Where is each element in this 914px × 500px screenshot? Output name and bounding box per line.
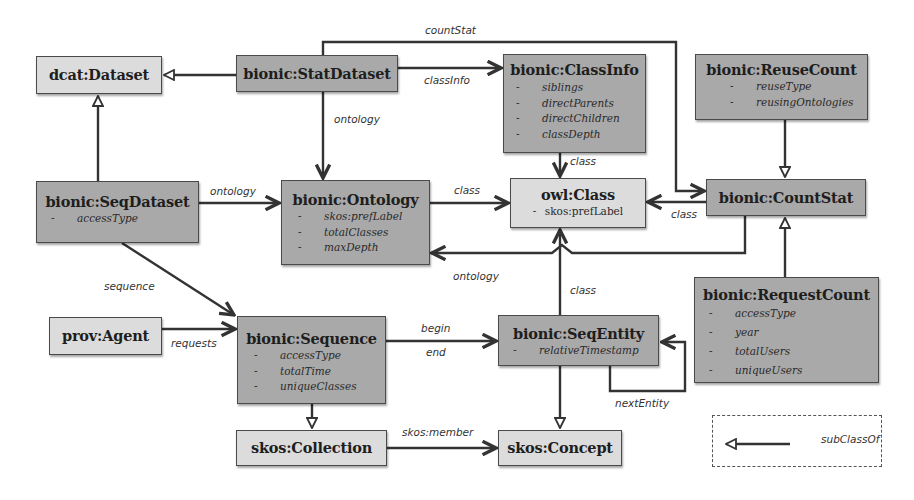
edge-label-sequence: sequence <box>104 280 155 292</box>
node-title: bionic:SeqEntity <box>499 325 658 343</box>
edge-label-classinfo: classInfo <box>424 74 470 86</box>
attribute: -year <box>709 323 878 342</box>
attribute: -accessType <box>254 348 385 364</box>
node-title: skos:Collection <box>237 439 386 457</box>
attribute: -accessType <box>51 211 198 227</box>
edge-label-seq-ontology: ontology <box>210 185 256 197</box>
node-title: dcat:Dataset <box>37 66 161 84</box>
edge-label-begin: begin <box>421 322 450 334</box>
attribute: -relativeTimestamp <box>513 343 658 359</box>
edge-label-ontology-class: class <box>454 184 480 196</box>
node-skos-collection: skos:Collection <box>236 430 387 466</box>
node-bionic-statdataset: bionic:StatDataset <box>236 55 398 92</box>
attribute: -siblings <box>516 80 645 96</box>
node-owl-class: owl:Class -skos:prefLabel <box>510 178 646 228</box>
node-bionic-countstat: bionic:CountStat <box>706 179 866 216</box>
edge-label-countstat: countStat <box>425 24 476 36</box>
edge-label-stat-ontology: ontology <box>334 113 380 125</box>
node-title: bionic:ReuseCount <box>696 61 867 79</box>
node-bionic-sequence: bionic:Sequence -accessType -totalTime -… <box>237 316 386 404</box>
attribute: -classDepth <box>516 127 645 143</box>
edge-label-classinfo-class: class <box>570 155 596 167</box>
edge-label-nextentity: nextEntity <box>615 397 669 409</box>
node-title: prov:Agent <box>50 327 161 345</box>
node-bionic-seqentity: bionic:SeqEntity -relativeTimestamp <box>498 315 659 366</box>
node-prov-agent: prov:Agent <box>49 317 162 355</box>
attribute: -totalTime <box>254 364 385 380</box>
node-title: bionic:StatDataset <box>237 65 397 83</box>
attribute: -directChildren <box>516 111 645 127</box>
node-title: bionic:SeqDataset <box>37 193 198 211</box>
attribute: -reusingOntologies <box>730 95 867 111</box>
attribute: -directParents <box>516 96 645 112</box>
attribute: -uniqueUsers <box>709 361 878 380</box>
node-dcat-dataset: dcat:Dataset <box>36 56 162 94</box>
node-title: bionic:RequestCount <box>695 286 878 304</box>
edge-label-skos-member: skos:member <box>402 426 473 438</box>
node-bionic-requestcount: bionic:RequestCount -accessType -year -t… <box>694 277 879 383</box>
attribute: -totalClasses <box>298 225 429 241</box>
edge-label-requests: requests <box>171 337 217 349</box>
node-bionic-seqdataset: bionic:SeqDataset -accessType <box>36 181 199 243</box>
edge-label-countstat-ontology: ontology <box>453 270 499 282</box>
attribute: -uniqueClasses <box>254 379 385 395</box>
attribute: -totalUsers <box>709 342 878 361</box>
attribute: -accessType <box>709 304 878 323</box>
node-title: bionic:CountStat <box>707 189 865 207</box>
legend-label: subClassOf <box>821 433 879 445</box>
edge-label-seqentity-class: class <box>570 284 596 296</box>
edge-sequence <box>122 243 234 315</box>
node-title: bionic:ClassInfo <box>504 61 645 79</box>
legend: subClassOf <box>712 415 882 467</box>
node-title: owl:Class <box>511 186 645 204</box>
edge-label-end: end <box>426 346 446 358</box>
attribute: -skos:prefLabel <box>298 209 429 225</box>
attribute: -maxDepth <box>298 240 429 256</box>
node-title: bionic:Ontology <box>282 191 429 209</box>
node-bionic-ontology: bionic:Ontology -skos:prefLabel -totalCl… <box>281 180 430 265</box>
ontology-diagram: dcat:Dataset bionic:StatDataset bionic:C… <box>0 0 914 500</box>
node-bionic-reusecount: bionic:ReuseCount -reuseType -reusingOnt… <box>695 54 868 120</box>
node-skos-concept: skos:Concept <box>498 430 622 466</box>
edge-label-countstat-class: class <box>671 208 697 220</box>
attribute: -reuseType <box>730 79 867 95</box>
node-bionic-classinfo: bionic:ClassInfo -siblings -directParent… <box>503 54 646 153</box>
node-title: bionic:Sequence <box>238 330 385 348</box>
node-title: skos:Concept <box>499 439 621 457</box>
attribute: -skos:prefLabel <box>511 204 645 220</box>
